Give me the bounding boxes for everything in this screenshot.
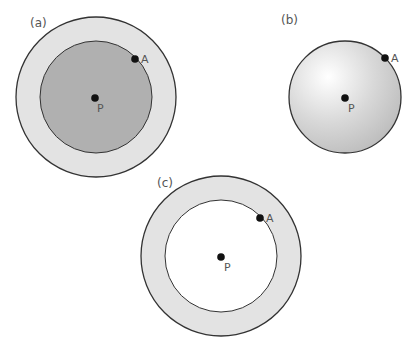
point-p-label: P (224, 261, 231, 274)
point-p-label: P (348, 102, 355, 115)
point-p-dot (341, 94, 349, 102)
point-p-dot (91, 94, 99, 102)
panel-b-label: (b) (281, 13, 298, 27)
panel-a: (a) P A (16, 16, 176, 177)
diagram-canvas: (a) P A (b) P A (c) P A (0, 0, 420, 351)
point-a-dot (381, 54, 389, 62)
panel-b: (b) P A (281, 13, 401, 153)
point-p-dot (217, 253, 225, 261)
point-a-dot (256, 214, 264, 222)
panel-c-label: (c) (157, 176, 173, 190)
point-a-label: A (391, 52, 399, 65)
panel-c: (c) P A (141, 176, 301, 336)
point-a-label: A (141, 53, 149, 66)
point-a-label: A (266, 212, 274, 225)
point-p-label: P (97, 102, 104, 115)
panel-a-label: (a) (30, 16, 47, 30)
point-a-dot (131, 55, 139, 63)
